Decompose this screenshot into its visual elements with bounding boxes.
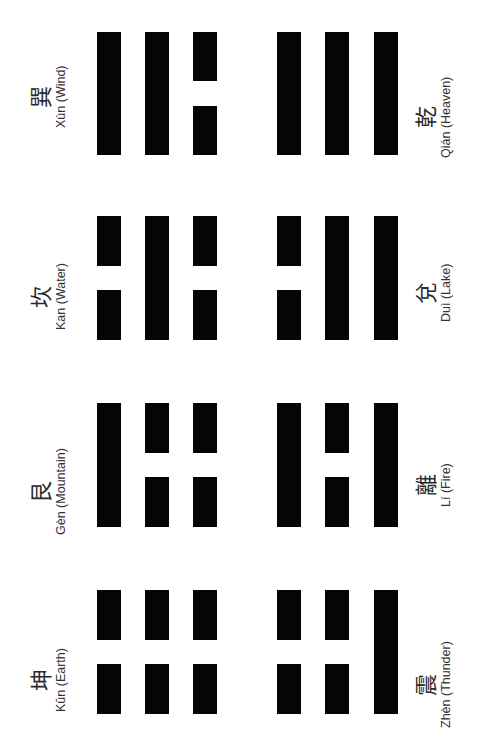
yang-line-solid [97, 32, 121, 155]
yin-line-segment [277, 590, 301, 640]
yang-line-solid [325, 216, 349, 340]
yin-line-segment [145, 403, 169, 453]
trigram-hanzi: 震 [415, 674, 439, 696]
trigram-label-gen: 艮 Gèn (Mountain) [30, 448, 68, 535]
yin-line-segment [193, 403, 217, 453]
trigram-label-kan: 坎 Kan (Water) [30, 263, 68, 330]
yin-line-segment [325, 664, 349, 714]
yang-line-solid [374, 216, 398, 340]
trigram-label-xun: 巽 Xùn (Wind) [30, 65, 68, 128]
trigram-name: Gèn (Mountain) [54, 448, 68, 535]
trigram-name: Duì (Lake) [439, 264, 453, 322]
trigram-hanzi: 坎 [30, 286, 54, 308]
yang-line-solid [325, 32, 349, 155]
yin-line-segment [325, 590, 349, 640]
yin-line-segment [193, 290, 217, 340]
trigram-label-qian: 乾 Qián (Heaven) [415, 77, 453, 158]
trigram-hanzi: 離 [415, 474, 439, 496]
yang-line-solid [374, 403, 398, 527]
yin-line-segment [145, 664, 169, 714]
trigram-label-kun: 坤 Kūn (Earth) [30, 648, 68, 712]
trigram-label-zhen: 震 Zhèn (Thunder) [415, 641, 453, 728]
yin-line-segment [193, 216, 217, 266]
yin-line-segment [277, 216, 301, 266]
yin-line-segment [97, 290, 121, 340]
yin-line-segment [193, 590, 217, 640]
yang-line-solid [374, 590, 398, 714]
yang-line-solid [145, 216, 169, 340]
trigram-label-li: 離 Lí (Fire) [415, 463, 453, 507]
yin-line-segment [145, 477, 169, 527]
trigram-hanzi: 乾 [415, 106, 439, 128]
trigram-name: Qián (Heaven) [439, 77, 453, 158]
yin-line-segment [97, 216, 121, 266]
trigram-hanzi: 坤 [30, 669, 54, 691]
trigram-hanzi: 兌 [415, 282, 439, 304]
yang-line-solid [97, 403, 121, 527]
yin-line-segment [97, 664, 121, 714]
yin-line-segment [325, 403, 349, 453]
yin-line-segment [97, 590, 121, 640]
yin-line-segment [193, 32, 217, 81]
yin-line-segment [145, 590, 169, 640]
yang-line-solid [277, 32, 301, 155]
yin-line-segment [325, 477, 349, 527]
trigram-name: Kūn (Earth) [54, 648, 68, 712]
yang-line-solid [277, 403, 301, 527]
yin-line-segment [277, 290, 301, 340]
trigram-hanzi: 巽 [30, 86, 54, 108]
yang-line-solid [145, 32, 169, 155]
yin-line-segment [193, 106, 217, 155]
trigram-hanzi: 艮 [30, 481, 54, 503]
yin-line-segment [193, 664, 217, 714]
trigram-name: Xùn (Wind) [54, 65, 68, 128]
trigram-name: Lí (Fire) [439, 463, 453, 507]
trigram-label-dui: 兌 Duì (Lake) [415, 264, 453, 322]
yang-line-solid [374, 32, 398, 155]
yin-line-segment [277, 664, 301, 714]
trigram-name: Kan (Water) [54, 263, 68, 330]
yin-line-segment [193, 477, 217, 527]
trigram-name: Zhèn (Thunder) [439, 641, 453, 728]
